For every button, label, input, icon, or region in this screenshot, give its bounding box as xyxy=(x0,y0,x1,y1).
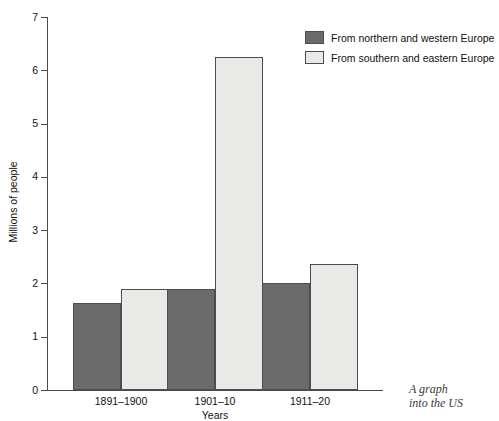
y-axis-tick-label: 4 xyxy=(8,171,38,182)
bar-north-west-2 xyxy=(262,283,310,390)
bar-north-west-1 xyxy=(167,289,215,390)
legend-swatch-north xyxy=(305,31,324,44)
y-axis-tick-label-wrap: 3 xyxy=(0,225,38,236)
legend-swatch-south xyxy=(305,51,324,64)
chart-legend: From northern and western EuropeFrom sou… xyxy=(305,30,487,70)
x-axis-group-label: 1911–20 xyxy=(250,395,370,407)
legend-item: From northern and western Europe xyxy=(305,30,487,45)
bar-south-east-1 xyxy=(215,57,263,390)
y-axis-tick-label-wrap: 1 xyxy=(0,331,38,342)
y-axis-tick xyxy=(41,17,48,18)
y-axis-tick-label: 3 xyxy=(8,225,38,236)
y-axis-tick xyxy=(41,390,48,391)
caption-line-2: into the US xyxy=(409,396,499,410)
legend-item: From southern and eastern Europe xyxy=(305,50,487,65)
x-axis-line xyxy=(47,390,383,391)
bar-south-east-2 xyxy=(310,264,358,390)
y-axis-tick-label: 2 xyxy=(8,278,38,289)
y-axis-tick-label-wrap: 6 xyxy=(0,65,38,76)
y-axis-tick-label-wrap: 0 xyxy=(0,385,38,396)
y-axis-tick-label: 5 xyxy=(8,118,38,129)
legend-label: From northern and western Europe xyxy=(331,32,494,44)
y-axis-tick-label: 7 xyxy=(8,12,38,23)
bar-south-east-0 xyxy=(121,289,169,390)
y-axis-tick-label: 6 xyxy=(8,65,38,76)
y-axis-tick xyxy=(41,337,48,338)
y-axis-tick-label-wrap: 2 xyxy=(0,278,38,289)
y-axis-tick xyxy=(41,230,48,231)
x-axis-title: Years xyxy=(48,409,382,421)
y-axis-tick-label-wrap: 5 xyxy=(0,118,38,129)
legend-label: From southern and eastern Europe xyxy=(331,52,494,64)
y-axis-tick xyxy=(41,283,48,284)
y-axis-title: Millions of people xyxy=(7,137,19,267)
y-axis-tick-label: 1 xyxy=(8,331,38,342)
bar-north-west-0 xyxy=(73,303,121,390)
y-axis-tick xyxy=(41,124,48,125)
figure-caption: A graph into the US xyxy=(409,382,499,410)
plot-area xyxy=(48,17,382,390)
caption-line-1: A graph xyxy=(409,382,499,396)
y-axis-tick-label-wrap: 4 xyxy=(0,171,38,182)
y-axis-tick xyxy=(41,177,48,178)
y-axis-tick xyxy=(41,70,48,71)
y-axis-tick-label: 0 xyxy=(8,385,38,396)
y-axis-tick-label-wrap: 7 xyxy=(0,12,38,23)
